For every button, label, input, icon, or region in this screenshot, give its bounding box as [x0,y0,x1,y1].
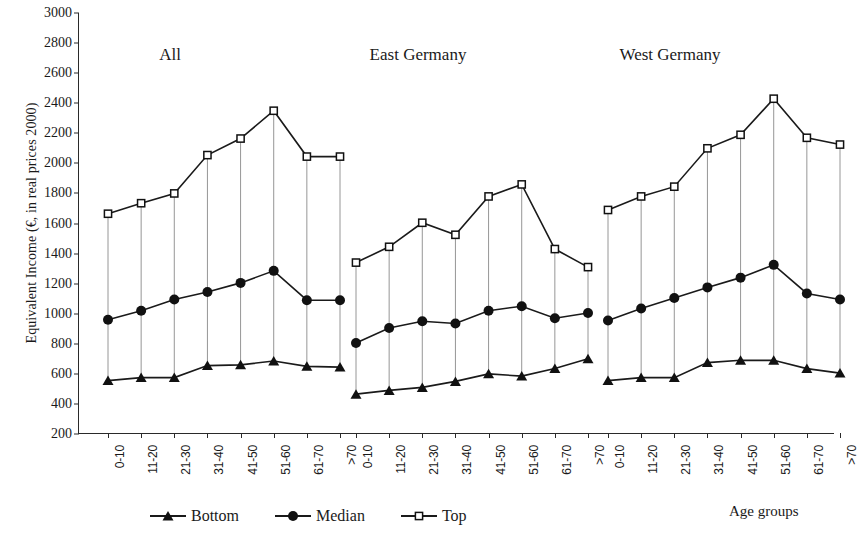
x-tick-label: 51-60 [279,445,293,475]
x-tick-label: 11-20 [394,445,408,474]
x-tick-label: 31-40 [460,445,474,475]
data-point-median [517,301,527,311]
series-line-top [356,184,588,267]
x-tick-label: >70 [345,445,359,465]
data-point-median [269,266,279,276]
y-tick-label: 1800 [44,185,72,201]
x-tick-label: 21-30 [679,445,693,475]
y-tick-label: 2600 [44,65,72,81]
y-tick-label: 2000 [44,155,72,171]
y-tick-label: 400 [51,396,72,412]
x-tick-label: >70 [845,445,859,465]
y-tick-label: 1000 [44,306,72,322]
y-tick-label: 1600 [44,216,72,232]
x-tick-label: 11-20 [646,445,660,474]
data-point-median [736,273,746,283]
y-tick-label: 2800 [44,35,72,51]
x-tick-label: 51-60 [779,445,793,475]
x-tick-label: 21-30 [427,445,441,475]
data-point-top [237,135,244,142]
y-tick-label: 1200 [44,276,72,292]
data-point-top [836,141,843,148]
x-tick-label: 51-60 [527,445,541,475]
data-point-top [704,145,711,152]
x-tick-mark [840,433,841,438]
x-tick-label: 61-70 [560,445,574,475]
data-point-top [584,264,591,271]
x-tick-label: 41-50 [494,445,508,475]
data-point-top [336,153,343,160]
x-tick-label: >70 [593,445,607,465]
x-tick-label: 0-10 [361,445,375,468]
data-point-median [202,287,212,297]
data-point-median [450,318,460,328]
data-point-top [737,131,744,138]
data-point-median [335,295,345,305]
data-point-top [518,181,525,188]
x-tick-label: 31-40 [212,445,226,475]
data-point-top [386,243,393,250]
series-line-top [108,111,340,214]
legend-label: Bottom [191,508,239,524]
data-point-median [302,295,312,305]
y-tick-label: 1400 [44,246,72,262]
data-point-top [671,183,678,190]
x-tick-label: 0-10 [113,445,127,468]
x-tick-label: 11-20 [146,445,160,474]
data-point-median [802,288,812,298]
data-point-top [204,151,211,158]
data-point-median [484,306,494,316]
y-tick-label: 800 [51,336,72,352]
data-point-top [452,231,459,238]
data-point-top [352,259,359,266]
data-point-median [417,316,427,326]
y-tick-label: 2400 [44,95,72,111]
data-point-median [236,278,246,288]
legend-item-top[interactable]: Top [399,508,467,524]
data-point-median [835,294,845,304]
y-tick-label: 600 [51,366,72,382]
data-point-bottom [583,354,594,364]
data-point-median [384,323,394,333]
data-point-median [769,260,779,270]
data-point-top [485,193,492,200]
legend-item-median[interactable]: Median [273,508,365,524]
data-point-median [669,293,679,303]
legend-marker-circle-icon [273,508,313,524]
data-point-top [171,190,178,197]
data-point-median [169,294,179,304]
data-point-top [303,153,310,160]
data-point-top [803,134,810,141]
x-tick-label: 41-50 [246,445,260,475]
data-point-median [583,308,593,318]
data-point-top [638,193,645,200]
x-tick-label: 61-70 [812,445,826,475]
x-axis-title: Age groups [729,503,799,520]
data-point-median [351,338,361,348]
y-tick-label: 3000 [44,5,72,21]
legend-label: Median [316,508,365,524]
data-point-top [270,107,277,114]
chart-legend: BottomMedianTop [148,508,467,524]
data-point-median [603,315,613,325]
legend-marker-square-icon [399,508,439,524]
x-tick-label: 31-40 [712,445,726,475]
legend-marker-triangle-icon [148,508,188,524]
data-point-top [551,245,558,252]
data-point-median [136,306,146,316]
x-tick-label: 41-50 [746,445,760,475]
series-layer [78,13,834,434]
data-point-top [104,210,111,217]
y-tick-label: 200 [51,426,72,442]
data-point-median [103,315,113,325]
x-tick-label: 0-10 [613,445,627,468]
data-point-top [138,200,145,207]
data-point-median [636,303,646,313]
y-tick-label: 2200 [44,125,72,141]
data-point-median [702,282,712,292]
data-point-top [419,219,426,226]
legend-item-bottom[interactable]: Bottom [148,508,239,524]
y-axis-title: Equivalent Income (€, in real prices 200… [24,73,40,373]
data-point-top [604,206,611,213]
